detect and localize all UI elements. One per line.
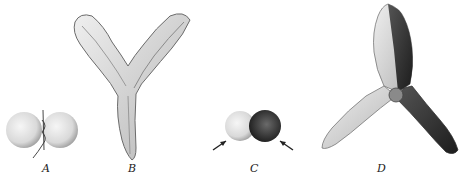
panel-a-specimen	[6, 110, 78, 158]
panel-label-a: A	[42, 162, 50, 175]
panel-label-d: D	[377, 162, 386, 175]
panel-label-c: C	[250, 162, 258, 175]
panel-d-specimen	[322, 4, 458, 154]
panel-b-specimen	[74, 14, 190, 160]
panel-c-specimen	[213, 110, 293, 150]
specimen-figure	[0, 0, 465, 180]
panel-label-b: B	[128, 162, 136, 175]
